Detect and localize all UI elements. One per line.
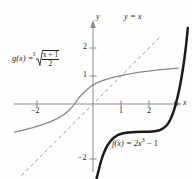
x-tick-label-2: 2 (147, 107, 151, 115)
y-axis (90, 20, 96, 172)
g-label-fraction: x + 12 (42, 50, 59, 67)
y-tick-label--2: −2 (78, 154, 87, 162)
cube-root-radical-icon: 3x + 12 (36, 50, 59, 67)
x-tick-label--2: −2 (31, 107, 40, 115)
y-tick-label-1: 1 (83, 71, 87, 79)
y-axis-label: y (96, 13, 100, 21)
f-label-suffix: − 1 (145, 138, 158, 148)
x-axis-label: x (183, 99, 187, 107)
fraction-denominator: 2 (42, 59, 59, 68)
identity-line-label: y = x (124, 12, 142, 21)
x-tick-label-1: 1 (119, 107, 123, 115)
graph-canvas (0, 0, 192, 179)
graph-figure: x y −2 1 2 2 1 −2 y = x f(x) = 2x3 − 1 g… (0, 0, 192, 179)
fraction-numerator: x + 1 (42, 51, 59, 59)
f-function-label: f(x) = 2x3 − 1 (112, 139, 158, 148)
y-tick-label-2: 2 (83, 43, 87, 51)
g-function-label: g(x) = 3x + 12 (12, 50, 59, 67)
f-label-prefix: f(x) = 2x (112, 138, 142, 148)
radical-index: 3 (32, 52, 35, 58)
